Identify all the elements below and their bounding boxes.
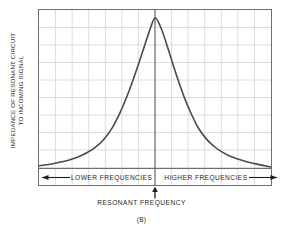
y-axis-label: IMPEDANCE OF RESONANT CIRCUIT TO INCOMIN… [0, 0, 36, 180]
y-axis-label-line-1: IMPEDANCE OF RESONANT CIRCUIT [10, 32, 18, 147]
resonant-circuit-figure: IMPEDANCE OF RESONANT CIRCUIT TO INCOMIN… [0, 0, 283, 234]
plot-area [38, 9, 272, 186]
arrow-up-icon [149, 186, 161, 199]
figure-caption: (B) [0, 216, 283, 223]
resonant-frequency-label: RESONANT FREQUENCY [0, 199, 283, 206]
resonance-curve [39, 10, 271, 185]
y-axis-label-line-2: TO INCOMING SIGNAL [18, 32, 26, 147]
